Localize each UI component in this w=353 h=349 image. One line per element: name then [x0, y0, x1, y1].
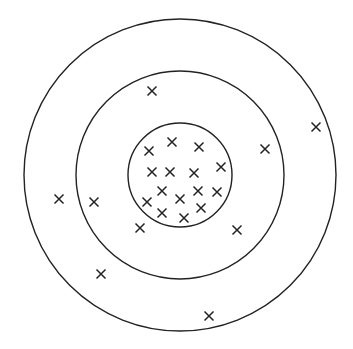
x-marker-icon [158, 187, 167, 196]
x-marker-icon [180, 214, 189, 223]
x-marker-icon [213, 188, 222, 197]
x-marker-icon [261, 145, 270, 154]
x-marker-icon [176, 195, 185, 204]
x-marker-icon [233, 226, 242, 235]
inner-circle [128, 123, 232, 227]
concentric-circles-diagram [0, 0, 353, 349]
x-marker-icon [136, 224, 145, 233]
x-marker-icon [312, 123, 321, 132]
x-marker-icon [148, 168, 157, 177]
x-marker-icon [197, 204, 206, 213]
x-marker-icon [143, 198, 152, 207]
x-marker-icon [97, 270, 106, 279]
x-marker-icon [158, 209, 167, 218]
x-marker-icon [166, 168, 175, 177]
x-marker-icon [55, 195, 64, 204]
x-marker-icon [145, 147, 154, 156]
middle-circle [76, 71, 284, 279]
x-marker-icon [194, 187, 203, 196]
x-marker-icon [190, 169, 199, 178]
x-marker-icon [217, 163, 226, 172]
x-marker-icon [205, 312, 214, 321]
outer-circle [24, 19, 336, 331]
x-marker-icon [90, 198, 99, 207]
x-marker-icon [148, 87, 157, 96]
x-marker-icon [195, 143, 204, 152]
x-marker-icon [168, 138, 177, 147]
